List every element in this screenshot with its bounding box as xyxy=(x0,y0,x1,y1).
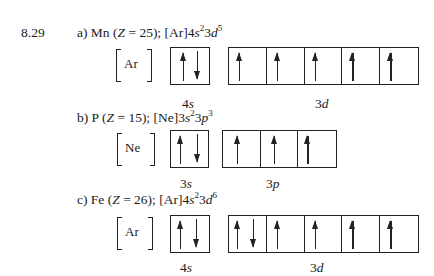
shell-number: 3 xyxy=(195,110,202,125)
orbital-cell xyxy=(171,48,209,84)
subshell-label-3p: 3p xyxy=(266,176,280,192)
orbital-cell xyxy=(267,48,305,84)
orbital-box-3s xyxy=(170,130,209,168)
orbital-cell xyxy=(229,48,267,84)
part-b-prefix: b) P ( xyxy=(77,110,107,125)
spin-up-arrow-icon xyxy=(352,221,353,249)
problem-number: 8.29 xyxy=(21,25,45,41)
orbital-s: s xyxy=(187,260,192,275)
spin-up-arrow-icon xyxy=(315,221,316,249)
spin-up-arrow-icon xyxy=(390,221,391,249)
subshell-label-3d: 3d xyxy=(310,260,324,276)
z-symbol: Z xyxy=(118,25,126,40)
spin-down-arrow-icon xyxy=(197,51,198,79)
shell-number: 3 xyxy=(204,25,211,40)
orbital-box-3p xyxy=(222,130,337,168)
core-bracket-right xyxy=(148,217,153,250)
orbital-d: d xyxy=(211,25,218,40)
shell-number: 3 xyxy=(199,192,206,207)
core-label-ar: Ar xyxy=(125,224,139,240)
spin-down-arrow-icon xyxy=(196,219,197,247)
subshell-label-4s: 4s xyxy=(180,260,192,276)
orbital-cell xyxy=(380,216,418,252)
orbital-d: d xyxy=(317,260,324,275)
part-c-heading: c) Fe (Z = 26); [Ar]4s23d6 xyxy=(77,192,217,208)
part-c-z-value: = 26); [Ar]4 xyxy=(120,192,189,207)
spin-up-arrow-icon xyxy=(307,136,308,164)
core-bracket-right xyxy=(150,133,155,166)
orbital-box-3d xyxy=(228,215,419,253)
orbital-cell xyxy=(171,131,208,167)
spin-up-arrow-icon xyxy=(237,136,238,164)
orbital-d: d xyxy=(206,192,213,207)
orbital-d: d xyxy=(322,96,329,111)
shell-number: 3 xyxy=(310,260,317,275)
orbital-box-3d xyxy=(228,47,419,85)
part-a-prefix: a) Mn ( xyxy=(77,25,118,40)
spin-up-arrow-icon xyxy=(277,221,278,249)
exponent: 3 xyxy=(208,108,213,118)
subshell-label-3s: 3s xyxy=(180,176,192,192)
orbital-box-4s xyxy=(170,215,210,253)
shell-number: 3 xyxy=(315,96,322,111)
subshell-label-3d: 3d xyxy=(315,96,329,112)
orbital-cell xyxy=(298,131,336,167)
orbital-cell xyxy=(267,216,305,252)
core-bracket-left xyxy=(117,217,122,250)
orbital-cell xyxy=(342,216,380,252)
orbital-box-4s xyxy=(170,47,210,85)
orbital-cell xyxy=(305,48,343,84)
spin-up-arrow-icon xyxy=(183,53,184,81)
spin-up-arrow-icon xyxy=(180,221,181,249)
orbital-cell xyxy=(223,131,261,167)
part-a-heading: a) Mn (Z = 25); [Ar]4s23d5 xyxy=(77,25,222,41)
spin-up-arrow-icon xyxy=(352,53,353,81)
shell-number: 4 xyxy=(182,96,189,111)
part-c-prefix: c) Fe ( xyxy=(77,192,112,207)
exponent: 5 xyxy=(218,23,223,33)
spin-up-arrow-icon xyxy=(237,221,238,249)
orbital-cell xyxy=(305,216,343,252)
core-label-ne: Ne xyxy=(125,140,140,156)
orbital-cell xyxy=(171,216,209,252)
part-a-z-value: = 25); [Ar]4 xyxy=(125,25,194,40)
core-bracket-left xyxy=(116,49,121,82)
spin-down-arrow-icon xyxy=(253,219,254,247)
orbital-s: s xyxy=(187,176,192,191)
orbital-cell xyxy=(380,48,418,84)
core-bracket-right xyxy=(147,49,152,82)
spin-up-arrow-icon xyxy=(274,136,275,164)
shell-number: 3 xyxy=(266,176,273,191)
spin-up-arrow-icon xyxy=(277,53,278,81)
part-b-heading: b) P (Z = 15); [Ne]3s23p3 xyxy=(77,110,213,126)
orbital-cell xyxy=(229,216,267,252)
part-b-z-value: = 15); [Ne]3 xyxy=(114,110,185,125)
core-bracket-left xyxy=(117,133,122,166)
z-symbol: Z xyxy=(107,110,115,125)
spin-down-arrow-icon xyxy=(197,134,198,162)
z-symbol: Z xyxy=(112,192,120,207)
spin-up-arrow-icon xyxy=(315,53,316,81)
shell-number: 3 xyxy=(180,176,187,191)
spin-up-arrow-icon xyxy=(180,136,181,164)
orbital-p: p xyxy=(273,176,280,191)
exponent: 6 xyxy=(213,190,218,200)
spin-up-arrow-icon xyxy=(390,53,391,81)
shell-number: 4 xyxy=(180,260,187,275)
core-label-ar: Ar xyxy=(124,56,138,72)
orbital-cell xyxy=(342,48,380,84)
orbital-cell xyxy=(261,131,299,167)
spin-up-arrow-icon xyxy=(239,53,240,81)
